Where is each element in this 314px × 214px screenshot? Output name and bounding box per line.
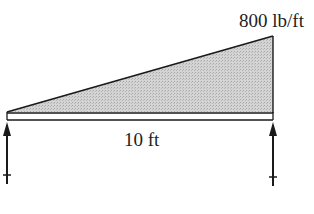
load-intensity-label: 800 lb/ft — [239, 10, 304, 32]
beam-diagram — [0, 0, 314, 214]
right-reaction-arrow-icon — [269, 122, 277, 186]
left-reaction-arrow-icon — [3, 122, 11, 184]
span-length-label: 10 ft — [124, 129, 159, 151]
triangular-load — [7, 36, 273, 113]
beam — [7, 112, 273, 120]
